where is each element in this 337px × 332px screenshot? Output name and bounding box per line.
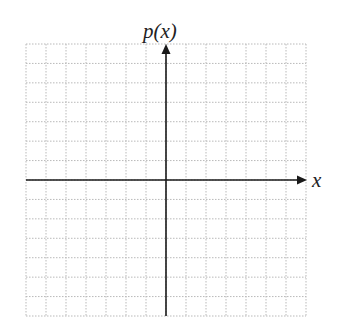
y-axis-label: p(x) bbox=[141, 19, 177, 43]
x-axis-label: x bbox=[311, 168, 322, 192]
y-axis-arrow-icon bbox=[162, 44, 171, 54]
coordinate-plane: p(x) x bbox=[0, 0, 337, 332]
